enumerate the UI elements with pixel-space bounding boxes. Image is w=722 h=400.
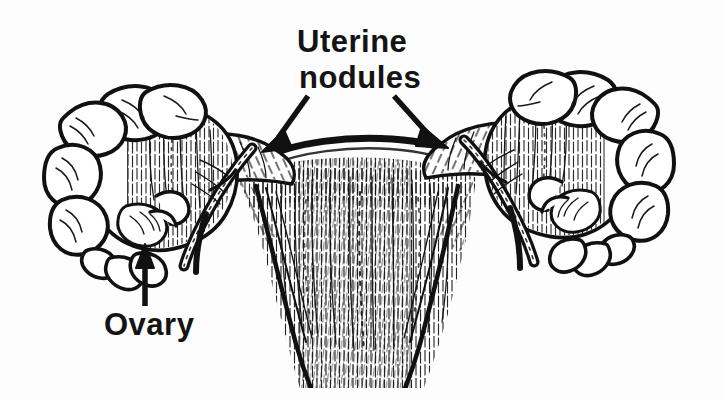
medical-illustration-figure: Uterine nodules Ovary	[0, 0, 722, 400]
label-ovary: Ovary	[104, 309, 194, 340]
nodule-lobe	[610, 183, 668, 241]
nodule-lobe	[50, 197, 108, 255]
nodule-lobe	[140, 85, 206, 138]
nodule-lobe	[510, 71, 576, 124]
label-uterine-nodules-line1: Uterine	[297, 26, 407, 57]
label-uterine-nodules-line2: nodules	[299, 62, 421, 93]
